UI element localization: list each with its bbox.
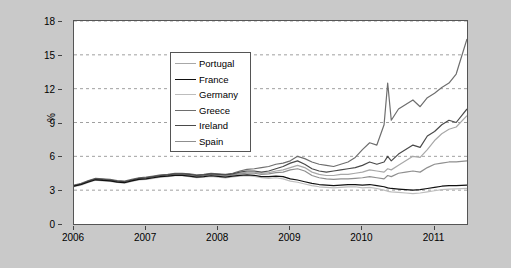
- chart-legend: PortugalFranceGermanyGreeceIrelandSpain: [170, 52, 251, 152]
- x-tick-mark: [289, 226, 290, 230]
- y-tick-mark: [58, 224, 62, 225]
- y-tick-label: 0: [49, 219, 55, 230]
- y-tick-mark: [58, 55, 62, 56]
- legend-swatch-germany: [175, 94, 196, 95]
- legend-item-ireland[interactable]: Ireland: [175, 118, 246, 134]
- y-tick-mark: [58, 156, 62, 157]
- y-tick-label: 15: [44, 49, 55, 60]
- legend-swatch-spain: [175, 141, 196, 142]
- y-tick-mark: [58, 21, 62, 22]
- legend-item-france[interactable]: France: [175, 72, 246, 88]
- y-tick-mark: [58, 190, 62, 191]
- x-axis: 200620072008200920102011: [73, 226, 468, 246]
- legend-swatch-france: [175, 79, 196, 80]
- legend-label: Greece: [199, 106, 230, 116]
- x-tick-mark: [73, 226, 74, 230]
- x-tick-label: 2008: [206, 232, 228, 243]
- y-tick-label: 12: [44, 83, 55, 94]
- x-tick-label: 2011: [423, 232, 445, 243]
- x-tick-mark: [217, 226, 218, 230]
- legend-label: Ireland: [199, 121, 228, 131]
- series-line-ireland: [74, 109, 467, 186]
- x-tick-label: 2010: [350, 232, 372, 243]
- legend-item-greece[interactable]: Greece: [175, 103, 246, 119]
- legend-label: France: [199, 75, 229, 85]
- legend-item-portugal[interactable]: Portugal: [175, 56, 246, 72]
- legend-label: Germany: [199, 90, 238, 100]
- x-tick-mark: [361, 226, 362, 230]
- x-tick-mark: [145, 226, 146, 230]
- y-axis-label: %: [46, 113, 57, 122]
- legend-swatch-portugal: [175, 63, 196, 64]
- y-tick-label: 18: [44, 16, 55, 27]
- legend-swatch-greece: [175, 110, 196, 111]
- plot-wrapper: PortugalFranceGermanyGreeceIrelandSpain: [73, 20, 468, 225]
- plot-area: [73, 20, 468, 225]
- y-tick-mark: [58, 89, 62, 90]
- y-tick-label: 3: [49, 185, 55, 196]
- chart-figure: 0369121518 % PortugalFranceGermanyGreece…: [0, 0, 511, 268]
- legend-item-spain[interactable]: Spain: [175, 134, 246, 150]
- series-line-greece: [74, 39, 467, 185]
- y-tick-label: 6: [49, 151, 55, 162]
- chart-svg: [74, 21, 467, 224]
- series-line-spain: [74, 161, 467, 186]
- legend-item-germany[interactable]: Germany: [175, 87, 246, 103]
- series-line-portugal: [74, 116, 467, 186]
- series-line-france: [74, 175, 467, 190]
- x-tick-label: 2006: [62, 232, 84, 243]
- x-tick-label: 2009: [278, 232, 300, 243]
- series-line-germany: [74, 176, 467, 194]
- x-tick-mark: [434, 226, 435, 230]
- y-tick-mark: [58, 123, 62, 124]
- legend-swatch-ireland: [175, 125, 196, 126]
- y-axis: 0369121518: [0, 20, 67, 225]
- legend-label: Portugal: [199, 59, 234, 69]
- legend-label: Spain: [199, 137, 223, 147]
- x-tick-label: 2007: [134, 232, 156, 243]
